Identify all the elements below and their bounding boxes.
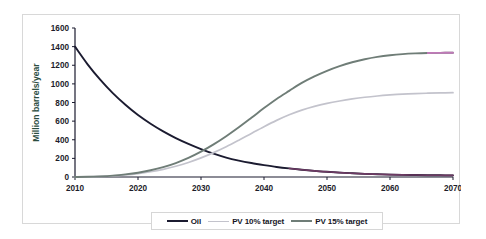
legend-item-pv-10-target[interactable]: PV 10% target <box>208 217 284 226</box>
y-tick-label: 0 <box>64 173 69 182</box>
x-tick-label: 2040 <box>255 184 274 193</box>
legend-label: PV 10% target <box>232 217 284 226</box>
y-tick-label: 600 <box>55 117 69 126</box>
legend-item-oil[interactable]: Oil <box>167 217 201 226</box>
y-tick-label: 400 <box>55 136 69 145</box>
x-tick-label: 2070 <box>444 184 461 193</box>
x-axis: 2010202020302040205020602070 <box>66 177 461 193</box>
chart-series-group <box>75 47 453 177</box>
x-tick-label: 2010 <box>66 184 85 193</box>
chart-legend: OilPV 10% targetPV 15% target <box>151 212 383 230</box>
legend-swatch-icon <box>291 220 312 222</box>
legend-item-pv-15-target[interactable]: PV 15% target <box>291 217 367 226</box>
y-tick-label: 1200 <box>51 61 70 70</box>
legend-swatch-icon <box>208 221 229 222</box>
series-line-oil <box>75 47 453 176</box>
y-tick-label: 200 <box>55 154 69 163</box>
legend-label: Oil <box>191 217 201 226</box>
legend-swatch-icon <box>167 220 188 222</box>
chart-figure-frame: 02004006008001000120014001600 2010202020… <box>22 14 460 224</box>
y-tick-label: 1400 <box>51 43 70 52</box>
y-tick-label: 1000 <box>51 80 70 89</box>
series-line-pv-15-target <box>75 53 453 177</box>
y-tick-label: 800 <box>55 99 69 108</box>
x-tick-label: 2030 <box>192 184 211 193</box>
y-axis: 02004006008001000120014001600 <box>51 24 75 182</box>
legend-label: PV 15% target <box>315 217 367 226</box>
x-tick-label: 2020 <box>129 184 148 193</box>
y-tick-label: 1600 <box>51 24 70 33</box>
line-chart: 02004006008001000120014001600 2010202020… <box>23 15 461 225</box>
x-tick-label: 2060 <box>381 184 400 193</box>
x-tick-label: 2050 <box>318 184 337 193</box>
y-axis-title: Million barrels/year <box>31 63 41 142</box>
